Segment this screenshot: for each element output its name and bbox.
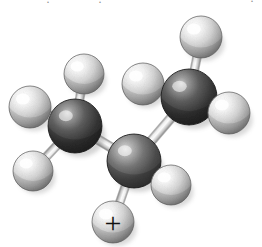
- atom-hydrogen-right-of-C3-highlight: [215, 100, 229, 111]
- atom-hydrogen-upper-mid-of-C3-highlight: [129, 71, 143, 82]
- atom-hydrogen-top-of-C3-highlight: [187, 24, 201, 35]
- atom-carbon-center-highlight: [118, 145, 132, 156]
- atom-hydrogen-top-left-of-C1: [64, 54, 106, 97]
- atom-carbon-left-highlight: [59, 110, 73, 121]
- atom-hydrogen-far-left-of-C1-highlight: [16, 94, 30, 105]
- atom-hydrogen-far-left-of-C1: [9, 86, 54, 131]
- atom-hydrogen-lower-left-of-C1-highlight: [20, 158, 33, 168]
- atom-carbon-right-highlight: [172, 81, 187, 92]
- atom-hydrogen-top-left-of-C1-highlight: [71, 61, 84, 71]
- atom-hydrogen-right-of-C3: [208, 92, 253, 137]
- atom-hydrogen-lower-right-of-C2: [151, 165, 193, 208]
- atom-hydrogen-top-of-C3: [180, 16, 225, 61]
- charge-label-H8: +: [105, 206, 122, 239]
- atom-hydrogen-upper-mid-of-C3: [122, 63, 167, 108]
- molecule-canvas: +: [0, 0, 262, 247]
- molecular-model-figure: + ···: [0, 0, 262, 247]
- atom-hydrogen-lower-right-of-C2-highlight: [158, 172, 171, 182]
- charge-label-layer: +: [105, 206, 122, 239]
